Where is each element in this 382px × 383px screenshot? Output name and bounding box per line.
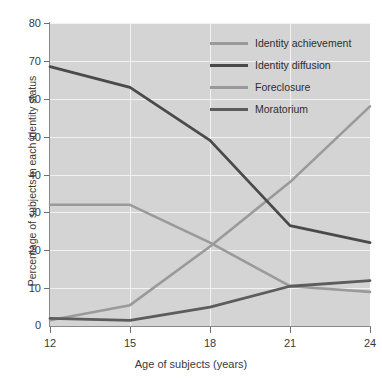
y-axis-title: Percentage of subjects in each identity … xyxy=(26,51,38,311)
y-tick-60 xyxy=(44,99,50,100)
y-tick-label-80: 80 xyxy=(17,18,41,29)
legend-label: Moratorium xyxy=(255,104,308,115)
y-tick-20 xyxy=(44,250,50,251)
legend-item-foreclosure[interactable]: Foreclosure xyxy=(210,82,351,93)
y-tick-50 xyxy=(44,137,50,138)
legend-label: Identity achievement xyxy=(255,38,351,49)
x-tick-label-18: 18 xyxy=(197,337,223,349)
x-tick-15 xyxy=(130,327,131,333)
x-tick-label-21: 21 xyxy=(277,337,303,349)
y-tick-70 xyxy=(44,61,50,62)
legend-swatch-icon xyxy=(210,108,248,111)
legend-item-moratorium[interactable]: Moratorium xyxy=(210,104,351,115)
legend-swatch-icon xyxy=(210,64,248,67)
legend-swatch-icon xyxy=(210,86,248,89)
legend-label: Foreclosure xyxy=(255,82,310,93)
x-tick-label-15: 15 xyxy=(117,337,143,349)
x-tick-12 xyxy=(50,327,51,333)
y-tick-40 xyxy=(44,175,50,176)
y-tick-80 xyxy=(44,23,50,24)
y-tick-10 xyxy=(44,288,50,289)
legend-swatch-icon xyxy=(210,42,248,45)
legend-item-identity-diffusion[interactable]: Identity diffusion xyxy=(210,60,351,71)
x-tick-24 xyxy=(370,327,371,333)
legend-item-identity-achievement[interactable]: Identity achievement xyxy=(210,38,351,49)
x-tick-21 xyxy=(290,327,291,333)
line-chart: 80 70 60 50 40 30 20 10 0 12 15 18 21 24… xyxy=(0,0,382,383)
y-tick-label-0: 0 xyxy=(17,320,41,331)
x-tick-label-24: 24 xyxy=(357,337,382,349)
gridline-x-15 xyxy=(130,23,131,326)
legend: Identity achievement Identity diffusion … xyxy=(210,38,351,115)
x-tick-label-12: 12 xyxy=(37,337,63,349)
x-axis-title: Age of subjects (years) xyxy=(0,358,382,370)
y-tick-30 xyxy=(44,212,50,213)
x-tick-18 xyxy=(210,327,211,333)
legend-label: Identity diffusion xyxy=(255,60,331,71)
